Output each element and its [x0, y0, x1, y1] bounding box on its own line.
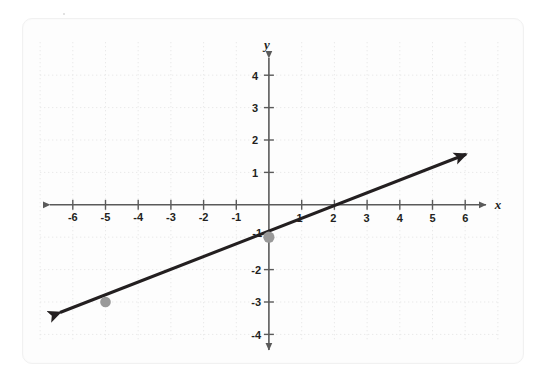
x-tick-label-4: 4 — [397, 212, 404, 224]
y-tick-label-1: 1 — [252, 167, 258, 179]
point-second — [100, 297, 111, 308]
y-tick-label--4: -4 — [251, 329, 262, 341]
point-y-intercept — [263, 232, 274, 243]
x-tick-label--2: -2 — [199, 211, 209, 223]
x-tick-label-5: 5 — [429, 212, 435, 224]
y-axis-label: y — [262, 37, 270, 52]
y-tick-label--1: -1 — [252, 227, 262, 239]
x-tick-label-6: 6 — [462, 212, 468, 224]
screenshot-root: -6 -5 -4 -3 -2 -1 1 2 3 4 5 6 4 3 2 1 -1… — [0, 0, 544, 378]
x-tick-label--5: -5 — [101, 211, 111, 223]
x-axis-label: x — [494, 197, 502, 212]
x-tick-label-3: 3 — [364, 212, 370, 224]
y-tick-label--2: -2 — [251, 264, 261, 276]
y-tick-label-3: 3 — [252, 102, 258, 114]
y-tick-label-4: 4 — [252, 70, 259, 82]
x-tick-label-1: 1 — [296, 212, 302, 224]
y-tick-label--3: -3 — [251, 296, 261, 308]
coordinate-plane-figure: -6 -5 -4 -3 -2 -1 1 2 3 4 5 6 4 3 2 1 -1… — [0, 0, 544, 378]
x-tick-label--3: -3 — [166, 211, 176, 223]
x-tick-label-2: 2 — [330, 212, 336, 224]
x-tick-label--1: -1 — [231, 211, 241, 223]
graph-svg: -6 -5 -4 -3 -2 -1 1 2 3 4 5 6 4 3 2 1 -1… — [0, 0, 544, 378]
x-tick-label--4: -4 — [133, 211, 144, 223]
y-tick-label-2: 2 — [252, 134, 258, 146]
plotted-line — [60, 154, 466, 312]
x-tick-label--6: -6 — [68, 211, 78, 223]
